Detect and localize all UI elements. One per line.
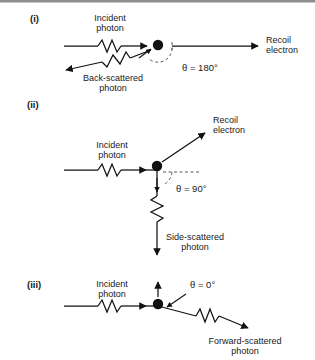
panel-i-incident-wave (98, 40, 121, 52)
panel-i-scattered-label-line2: photon (99, 83, 127, 93)
panel-iii-electron-dot (153, 299, 163, 309)
panel-ii-incident-label-line2: photon (98, 150, 126, 160)
panel-i-electron-label-line2: electron (266, 45, 298, 55)
compton-scattering-figure: (i) θ = 180° Incident photon Back-s (0, 0, 315, 360)
panel-ii-recoil-arrow (162, 133, 205, 162)
panel-iii-scattered-seg1 (158, 306, 196, 316)
panel-iii-label: (iii) (27, 279, 41, 290)
panel-ii-incident-wave (98, 164, 121, 176)
panel-iii-angle-leader (167, 294, 186, 307)
page-top-rule (0, 0, 315, 3)
panel-i-angle-label: θ = 180° (182, 62, 218, 73)
panel-ii-scattered-label-line1: Side-scattered (166, 232, 224, 242)
panel-iii-scattered-wave (196, 309, 219, 322)
panel-iii-incident-wave (98, 300, 121, 312)
panel-ii-scattered-wave (151, 196, 163, 222)
panel-ii-angle-label: θ = 90° (176, 183, 207, 194)
panel-i-scattered-arrow (66, 62, 102, 70)
panel-iii-scattered-arrow (219, 316, 248, 328)
panel-i-group: (i) θ = 180° Incident photon Back-s (30, 13, 298, 93)
panel-i-incident-label-line2: photon (96, 23, 124, 33)
panel-iii-incident-label-line2: photon (98, 289, 126, 299)
panel-i-scattered-label-line1: Back-scattered (83, 73, 143, 83)
panel-i-angle-arc (148, 48, 172, 62)
panel-ii-group: (ii) θ = 90° Incident photon Recoil (27, 99, 245, 255)
panel-i-scattered-wave (102, 52, 130, 67)
panel-ii-incident-label-line1: Incident (96, 140, 128, 150)
panel-ii-scattered-label-line2: photon (181, 242, 209, 252)
panel-iii-group: (iii) θ = 0° Incident photon Forward-sca… (27, 279, 282, 356)
panel-i-electron-label-line1: Recoil (266, 35, 291, 45)
panel-ii-electron-dot (152, 161, 162, 171)
panel-i-electron-dot (153, 40, 163, 50)
panel-ii-label: (ii) (27, 99, 39, 110)
panel-ii-angle-arc (163, 172, 172, 185)
panel-i-incident-label-line1: Incident (94, 13, 126, 23)
panel-ii-electron-label-line2: electron (213, 125, 245, 135)
panel-i-label: (i) (30, 13, 39, 24)
panel-iii-scattered-label-line1: Forward-scattered (208, 336, 281, 346)
panel-iii-angle-label: θ = 0° (190, 279, 215, 290)
panel-ii-electron-label-line1: Recoil (213, 115, 238, 125)
panel-iii-scattered-label-line2: photon (231, 346, 259, 356)
panel-iii-incident-label-line1: Incident (96, 279, 128, 289)
